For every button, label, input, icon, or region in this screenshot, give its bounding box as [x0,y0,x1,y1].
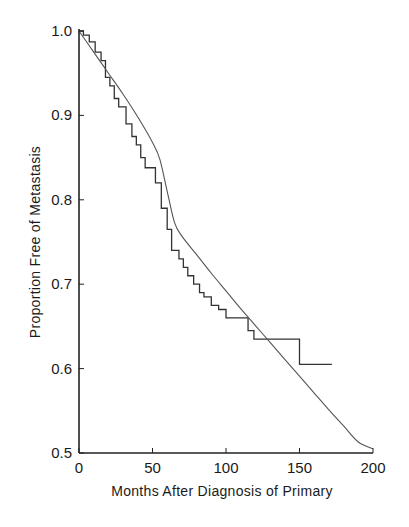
x-tick-label: 200 [360,459,385,476]
y-axis-title: Proportion Free of Metastasis [27,146,43,338]
survival-chart: 0.50.60.70.80.91.0 050100150200 Months A… [0,0,409,527]
y-tick-label: 0.9 [51,106,72,123]
y-tick-label: 0.6 [51,360,72,377]
fitted-curve-line [79,31,373,449]
x-tick-label: 150 [287,459,312,476]
y-tick-label: 0.5 [51,444,72,461]
x-tick-label: 0 [75,459,83,476]
x-tick-labels: 050100150200 [75,459,386,476]
x-axis-title: Months After Diagnosis of Primary [111,483,333,499]
x-tick-label: 100 [213,459,238,476]
plot-lines [79,31,373,449]
axes [79,29,373,453]
kaplan-meier-step-line [79,31,332,364]
x-tick-label: 50 [144,459,161,476]
y-tick-label: 0.8 [51,191,72,208]
y-tick-label: 1.0 [51,22,72,39]
y-tick-labels: 0.50.60.70.80.91.0 [51,22,72,461]
y-tick-label: 0.7 [51,275,72,292]
